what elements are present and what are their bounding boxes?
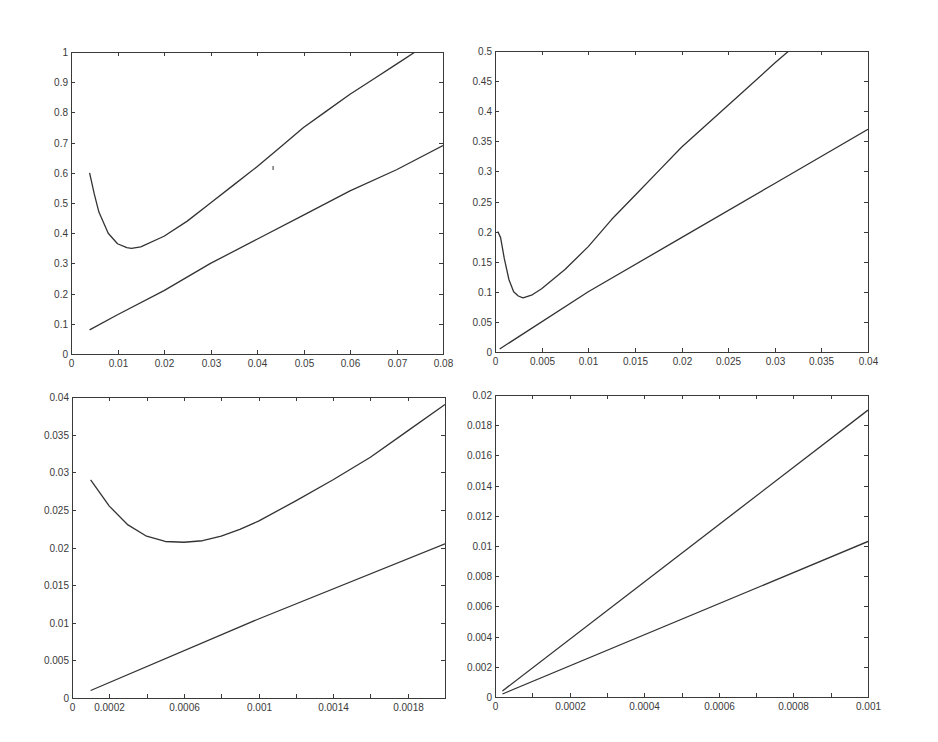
y-tick-label: 0.02 [473,390,493,401]
x-tick-label: 0.0004 [629,701,660,712]
y-tick-label: 0.04 [50,392,70,403]
x-tick-label: 0.04 [859,356,879,367]
x-tick-label: 0 [493,356,499,367]
x-tick-label: 0.02 [155,358,175,369]
y-tick-label: 0.004 [467,632,492,643]
y-tick-label: 0.015 [44,580,69,591]
subplot-bottom-right: 00.00020.00040.00060.00080.00100.0020.00… [467,390,881,712]
y-tick-label: 0.018 [467,420,492,431]
x-tick-label: 0.0006 [704,701,735,712]
y-tick-label: 0.25 [473,197,493,208]
y-tick-label: 0.6 [54,168,68,179]
y-tick-label: 0.35 [473,136,493,147]
y-tick-label: 0.006 [467,601,492,612]
y-tick-label: 0.5 [478,46,492,57]
y-tick-label: 0 [486,347,492,358]
y-tick-label: 0.008 [467,571,492,582]
y-tick-label: 0.5 [54,198,68,209]
y-tick-label: 0.016 [467,450,492,461]
y-tick-label: 0.4 [54,228,68,239]
subplot-top-right: 00.0050.010.0150.020.0250.030.0350.0400.… [473,46,879,367]
y-tick-label: 0.005 [44,655,69,666]
y-tick-label: 0.02 [50,543,70,554]
x-tick-label: 0.025 [716,356,741,367]
x-tick-label: 0.0018 [393,702,424,713]
axes-frame [496,52,869,353]
series-upper-curve [90,52,416,248]
x-tick-label: 0.07 [388,358,408,369]
x-tick-label: 0.001 [856,701,881,712]
y-tick-label: 0.014 [467,481,492,492]
x-tick-label: 0.005 [530,356,555,367]
figure: 00.010.020.030.040.050.060.070.0800.10.2… [0,0,938,742]
series-lower-line [500,129,868,349]
y-tick-label: 0.3 [478,166,492,177]
x-tick-label: 0.001 [247,702,272,713]
x-tick-label: 0.02 [673,356,693,367]
y-tick-label: 0.05 [473,317,493,328]
y-tick-label: 0.01 [50,618,70,629]
y-tick-label: 0.035 [44,430,69,441]
y-tick-label: 0 [63,693,69,704]
x-tick-label: 0.015 [623,356,648,367]
y-tick-label: 0.45 [473,76,493,87]
y-tick-label: 0.15 [473,257,493,268]
subplot-top-left: 00.010.020.030.040.050.060.070.0800.10.2… [54,47,454,369]
y-tick-label: 0.3 [54,258,68,269]
y-tick-label: 0.9 [54,77,68,88]
x-tick-label: 0.06 [341,358,361,369]
y-tick-label: 0.1 [478,287,492,298]
y-tick-label: 0.2 [54,289,68,300]
y-tick-label: 0.4 [478,106,492,117]
subplot-bottom-left: 00.00020.00060.0010.00140.001800.0050.01… [44,392,446,713]
y-tick-label: 0.7 [54,138,68,149]
series-upper-line [502,410,868,691]
scan-artifact [273,166,274,170]
x-tick-label: 0.01 [109,358,129,369]
x-tick-label: 0.04 [248,358,268,369]
y-tick-label: 1 [62,47,68,58]
x-tick-label: 0.0008 [778,701,809,712]
axes-frame [73,398,446,699]
y-tick-label: 0.8 [54,107,68,118]
y-tick-label: 0.1 [54,319,68,330]
x-tick-label: 0.03 [766,356,786,367]
y-tick-label: 0.025 [44,505,69,516]
x-tick-label: 0.03 [202,358,222,369]
y-tick-label: 0.2 [478,227,492,238]
x-tick-label: 0.08 [434,358,454,369]
y-tick-label: 0.012 [467,511,492,522]
x-tick-label: 0.0002 [94,702,125,713]
series-upper-curve [498,51,789,298]
y-tick-label: 0.002 [467,662,492,673]
y-tick-label: 0.01 [473,541,493,552]
series-upper-curve [91,405,445,543]
series-lower-line [502,541,868,694]
x-tick-label: 0.0014 [318,702,349,713]
y-tick-label: 0 [486,692,492,703]
series-lower-line [91,544,445,691]
x-tick-label: 0.05 [295,358,315,369]
axes-frame [496,396,869,698]
x-tick-label: 0 [69,358,75,369]
x-tick-label: 0 [493,701,499,712]
x-tick-label: 0.01 [579,356,599,367]
y-tick-label: 0.03 [50,467,70,478]
x-tick-label: 0.0002 [555,701,586,712]
x-tick-label: 0 [70,702,76,713]
x-tick-label: 0.0006 [169,702,200,713]
x-tick-label: 0.035 [809,356,834,367]
series-lower-line [90,146,443,330]
y-tick-label: 0 [62,349,68,360]
